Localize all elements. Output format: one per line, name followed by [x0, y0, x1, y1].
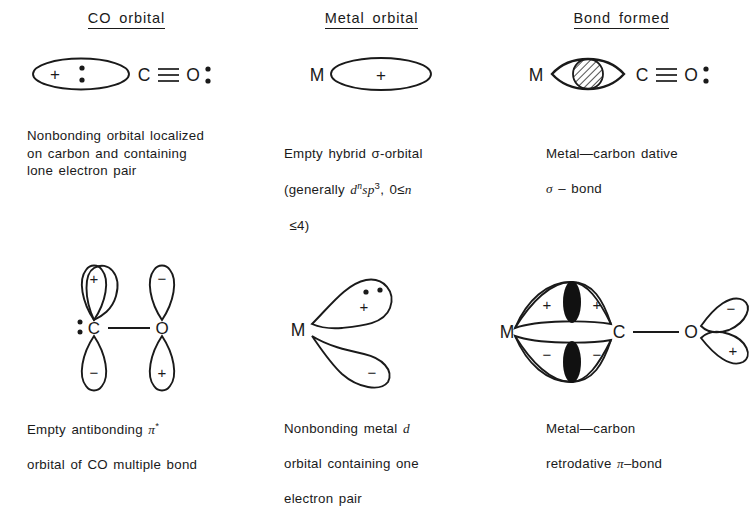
diagram-metal-hybrid-sigma-orbital: M + [253, 44, 490, 104]
caption-line-3: electron pair [284, 491, 362, 506]
caption-line-2: orbital containing one [284, 456, 419, 471]
column-metal-orbital: Metal orbital M + Empty hybrid σ-orbital… [253, 0, 490, 475]
svg-text:C: C [137, 65, 150, 85]
diagram-metal-carbon-retrodative-pi-bond: + + − − M C O − [490, 250, 753, 392]
caption-line-2a: (generally [284, 182, 350, 197]
svg-text:M: M [290, 320, 305, 340]
caption-metal-orbital: Empty hybrid σ-orbital (generally dnsp3,… [284, 127, 496, 234]
svg-text:−: − [542, 346, 551, 363]
svg-text:+: + [359, 298, 368, 315]
caption-co-orbital: Nonbonding orbital localized on carbon a… [27, 127, 253, 180]
column-header-label: Metal orbital [325, 10, 419, 29]
sigma-glyph: σ [546, 181, 553, 196]
svg-text:O: O [684, 65, 698, 85]
caption-co-pi-star: Empty antibonding π* orbital of CO multi… [27, 402, 253, 474]
column-header-co-orbital: CO orbital [0, 10, 253, 26]
pi-glyph: π [617, 456, 624, 471]
svg-text:−: − [89, 364, 98, 381]
caption-line-2: orbital of CO multiple bond [27, 457, 197, 472]
caption-line-2: – bond [553, 181, 602, 196]
column-bond-formed: Bond formed M C O [490, 0, 753, 475]
svg-text:−: − [726, 300, 735, 317]
n-glyph: n [405, 182, 412, 197]
star-glyph: * [155, 420, 159, 431]
svg-text:O: O [186, 65, 200, 85]
svg-text:M: M [499, 322, 514, 342]
caption-line-1: Empty hybrid σ-orbital [284, 146, 423, 161]
caption-line-2b: , 0≤ [380, 182, 405, 197]
svg-text:+: + [592, 296, 601, 313]
svg-text:C: C [612, 322, 625, 342]
svg-text:+: + [728, 342, 737, 359]
svg-text:−: − [367, 364, 376, 381]
column-header-label: Bond formed [574, 10, 670, 29]
diagram-metal-carbon-dative-sigma-bond: M C O [490, 44, 753, 104]
caption-line-1a: Empty antibonding [27, 422, 148, 437]
svg-text:O: O [684, 322, 698, 342]
diagram-co-sigma-donor-orbital: + C O [0, 44, 253, 104]
svg-text:−: − [157, 270, 166, 287]
column-co-orbital: CO orbital + C O Nonbonding orbital loca… [0, 0, 253, 475]
svg-text:M: M [309, 65, 324, 85]
svg-text:+: + [376, 66, 386, 85]
column-header-label: CO orbital [88, 10, 165, 29]
caption-metal-d-orbital: Nonbonding metal d orbital containing on… [284, 402, 496, 508]
svg-text:C: C [87, 319, 99, 338]
column-header-bond-formed: Bond formed [490, 10, 753, 26]
caption-retrodative-pi-bond: Metal—carbon retrodative π–bond [546, 402, 751, 473]
diagram-metal-d-orbital-filled: + − M [253, 250, 490, 392]
svg-text:+: + [542, 296, 551, 313]
column-header-metal-orbital: Metal orbital [253, 10, 490, 26]
caption-line-1: Metal—carbon [546, 421, 635, 436]
caption-bond-formed: Metal—carbon dative σ – bond [546, 127, 751, 198]
svg-text:O: O [155, 319, 168, 338]
caption-text: Nonbonding orbital localized on carbon a… [27, 128, 204, 178]
svg-text:+: + [157, 364, 166, 381]
caption-line-3: ≤4) [289, 218, 309, 233]
d-glyph: d [403, 421, 410, 436]
svg-text:−: − [592, 346, 601, 363]
diagram-co-pi-antibonding-orbital: + − − + C [0, 250, 253, 392]
sp-glyph: sp [362, 182, 374, 197]
caption-line-1a: Nonbonding metal [284, 421, 403, 436]
svg-text:+: + [89, 270, 98, 287]
svg-text:M: M [529, 65, 544, 85]
caption-line-1: Metal—carbon dative [546, 146, 678, 161]
svg-text:C: C [636, 65, 649, 85]
caption-line-2b: –bond [624, 456, 662, 471]
svg-text:+: + [50, 65, 60, 84]
caption-line-2a: retrodative [546, 456, 617, 471]
